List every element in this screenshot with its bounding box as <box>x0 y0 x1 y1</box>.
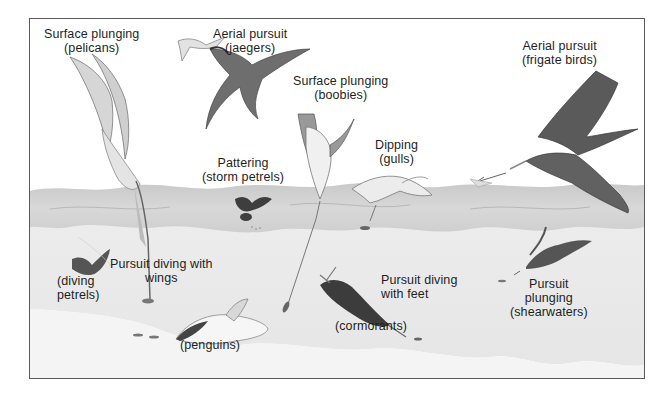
figure-frame: Surface plunging (pelicans) Aerial pursu… <box>29 18 645 379</box>
label-cormorants: (cormorants) <box>335 319 407 333</box>
label-frigatebirds: Aerial pursuit (frigate birds) <box>522 39 597 67</box>
label-shearwaters: Pursuit plunging (shearwaters) <box>510 277 588 319</box>
label-pelicans: Surface plunging (pelicans) <box>44 27 139 55</box>
label-diving-petrels: (diving petrels) <box>57 274 99 302</box>
label-gulls: Dipping (gulls) <box>375 138 418 166</box>
label-jaegers: Aerial pursuit (jaegers) <box>213 27 287 55</box>
label-boobies: Surface plunging (boobies) <box>293 74 388 102</box>
label-storm-petrels: Pattering (storm petrels) <box>202 156 284 184</box>
water-surface <box>30 183 644 232</box>
label-pursuit-diving-wings: Pursuit diving with wings <box>110 257 213 285</box>
label-penguins: (penguins) <box>180 338 240 352</box>
label-pursuit-diving-feet: Pursuit diving with feet <box>381 273 457 301</box>
